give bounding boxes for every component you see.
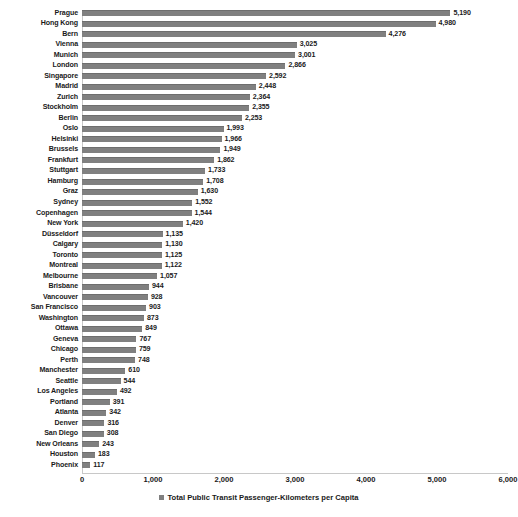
- bar-row: Hong Kong4,980: [0, 19, 518, 30]
- category-label: Seattle: [0, 378, 82, 385]
- bar-value-label: 1,630: [201, 188, 218, 195]
- bar-value-label: 316: [107, 420, 119, 427]
- bar-value-label: 3,025: [300, 41, 317, 48]
- bar: [82, 84, 256, 90]
- chart-legend: Total Public Transit Passenger-Kilometer…: [0, 494, 518, 502]
- bar-cell: 748: [82, 355, 518, 366]
- category-label: Toronto: [0, 252, 82, 259]
- category-label: San Diego: [0, 430, 82, 437]
- bar: [82, 431, 104, 437]
- bar-cell: 1,135: [82, 229, 518, 240]
- bar: [82, 420, 104, 426]
- bar-cell: 3,025: [82, 40, 518, 51]
- category-label: New York: [0, 220, 82, 227]
- bar-cell: 2,866: [82, 61, 518, 72]
- category-label: Ottawa: [0, 325, 82, 332]
- bar: [82, 389, 117, 395]
- bar: [82, 10, 450, 16]
- bar-value-label: 849: [145, 325, 157, 332]
- category-label: San Francisco: [0, 304, 82, 311]
- bar-value-label: 903: [149, 304, 161, 311]
- category-label: Brisbane: [0, 283, 82, 290]
- bar: [82, 126, 224, 132]
- bar-cell: 849: [82, 323, 518, 334]
- bar-row: Phoenix117: [0, 460, 518, 471]
- category-label: Vancouver: [0, 294, 82, 301]
- x-axis-tick-label: 4,000: [356, 476, 375, 484]
- bar-row: Prague5,190: [0, 8, 518, 19]
- category-label: Singapore: [0, 73, 82, 80]
- bar-row: Perth748: [0, 355, 518, 366]
- category-label: Stuttgart: [0, 167, 82, 174]
- bar-row: Washington873: [0, 313, 518, 324]
- category-label: Sydney: [0, 199, 82, 206]
- category-label: London: [0, 62, 82, 69]
- bar-cell: 2,364: [82, 92, 518, 103]
- bar: [82, 210, 192, 216]
- bar: [82, 73, 266, 79]
- category-label: Calgary: [0, 241, 82, 248]
- x-axis-tick-labels: 01,0002,0003,0004,0005,0006,000: [82, 476, 508, 490]
- bar-row: Denver316: [0, 418, 518, 429]
- bar-row: Oslo1,993: [0, 124, 518, 135]
- x-axis-tick-label: 2,000: [214, 476, 233, 484]
- bar: [82, 462, 90, 468]
- bar-cell: 308: [82, 429, 518, 440]
- bar-cell: 243: [82, 439, 518, 450]
- category-label: Munich: [0, 52, 82, 59]
- category-label: Washington: [0, 315, 82, 322]
- bar-value-label: 1,862: [217, 157, 234, 164]
- bar-row: Singapore2,592: [0, 71, 518, 82]
- bar-row: Stuttgart1,733: [0, 166, 518, 177]
- bar: [82, 263, 162, 269]
- category-label: Düsseldorf: [0, 231, 82, 238]
- bar-value-label: 4,276: [389, 31, 406, 38]
- bar-row: Brisbane944: [0, 281, 518, 292]
- bar: [82, 200, 192, 206]
- bar-row: Chicago759: [0, 345, 518, 356]
- category-label: Houston: [0, 451, 82, 458]
- bar-cell: 1,966: [82, 134, 518, 145]
- bar-cell: 316: [82, 418, 518, 429]
- bar-cell: 2,592: [82, 71, 518, 82]
- category-label: Prague: [0, 10, 82, 17]
- bar-row: Madrid2,448: [0, 82, 518, 93]
- bar-value-label: 610: [128, 367, 140, 374]
- bar: [82, 284, 149, 290]
- bar-cell: 391: [82, 397, 518, 408]
- bar-cell: 2,253: [82, 113, 518, 124]
- bar: [82, 252, 162, 258]
- bar-value-label: 1,966: [225, 136, 242, 143]
- category-label: Perth: [0, 357, 82, 364]
- bar: [82, 242, 162, 248]
- bar-cell: 759: [82, 345, 518, 356]
- category-label: Geneva: [0, 336, 82, 343]
- bar-value-label: 1,135: [166, 231, 183, 238]
- bar-cell: 4,980: [82, 19, 518, 30]
- bar-cell: 4,276: [82, 29, 518, 40]
- bar-row: Manchester610: [0, 366, 518, 377]
- bar-value-label: 183: [98, 451, 110, 458]
- bar: [82, 105, 249, 111]
- bar-value-label: 1,544: [195, 210, 212, 217]
- bar-cell: 1,057: [82, 271, 518, 282]
- bar-value-label: 1,057: [160, 273, 177, 280]
- bar-row: Los Angeles492: [0, 387, 518, 398]
- category-label: Berlin: [0, 115, 82, 122]
- bar-row: Melbourne1,057: [0, 271, 518, 282]
- bar-row: Montreal1,122: [0, 260, 518, 271]
- bar-value-label: 1,949: [223, 146, 240, 153]
- bar-value-label: 1,552: [195, 199, 212, 206]
- category-label: Zurich: [0, 94, 82, 101]
- bar: [82, 231, 163, 237]
- bar-row: Frankfurt1,862: [0, 155, 518, 166]
- bar-cell: 5,190: [82, 8, 518, 19]
- bar: [82, 42, 297, 48]
- bar-cell: 117: [82, 460, 518, 471]
- bar-cell: 767: [82, 334, 518, 345]
- bar-row: Seattle544: [0, 376, 518, 387]
- bar-row: San Francisco903: [0, 302, 518, 313]
- bar-value-label: 2,355: [252, 104, 269, 111]
- bar-value-label: 544: [124, 378, 136, 385]
- bar-cell: 1,130: [82, 239, 518, 250]
